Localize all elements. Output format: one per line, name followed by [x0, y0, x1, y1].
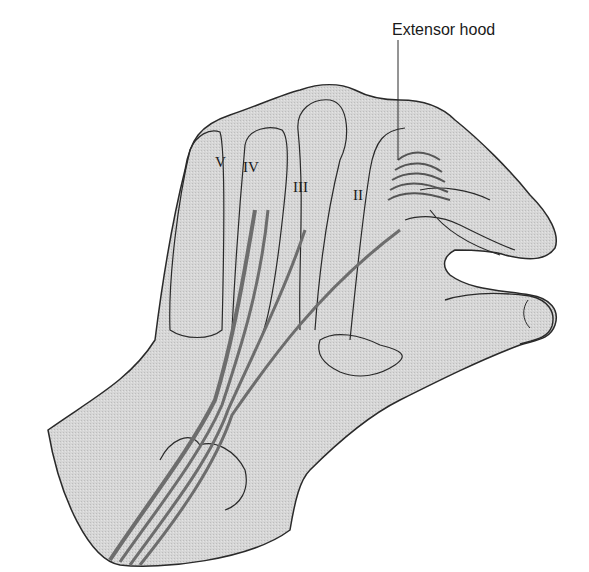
- anatomy-figure: Extensor hood V IV III II: [0, 0, 589, 572]
- extensor-hood-label: Extensor hood: [392, 22, 495, 38]
- digit-2-label: II: [353, 188, 363, 203]
- hand-illustration: [0, 0, 589, 572]
- digit-3-label: III: [293, 180, 308, 195]
- digit-4-label: IV: [243, 160, 259, 175]
- hand-silhouette: [48, 85, 556, 566]
- digit-5-label: V: [215, 155, 226, 170]
